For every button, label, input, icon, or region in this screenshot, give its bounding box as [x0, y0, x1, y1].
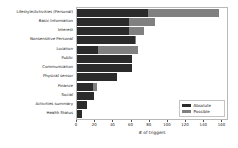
y-axis-tick-label: Nonsensitive Personal [0, 37, 73, 41]
bar-row [77, 54, 227, 63]
bar-absolute [77, 36, 135, 44]
y-axis-tick-label: Activities summary [0, 102, 73, 106]
bar-absolute [77, 73, 117, 81]
legend-label: Absolute [194, 103, 211, 108]
y-axis-tick-label: Health Status [0, 111, 73, 115]
bar-chart-figure: Lifestyle/Activities (Personal)Basic Inf… [0, 0, 238, 148]
bar-absolute [77, 18, 129, 26]
bar-absolute [77, 55, 132, 63]
y-axis-tick-label: Finance [0, 84, 73, 88]
y-axis-tick-label: Lifestyle/Activities (Personal) [0, 10, 73, 14]
legend-label: Possible [194, 109, 210, 114]
bar-absolute [77, 64, 132, 72]
x-axis-tick-label: 40 [110, 123, 115, 127]
legend-swatch [182, 110, 191, 113]
bar-row [77, 45, 227, 54]
x-axis-tick-label: 60 [128, 123, 133, 127]
chart-legend: AbsolutePossible [179, 100, 225, 117]
y-axis-tick-label: Communication [0, 65, 73, 69]
y-axis-tick-label: Interest [0, 28, 73, 32]
x-axis-tick-label: 160 [218, 123, 225, 127]
x-axis-tick-label: 80 [146, 123, 151, 127]
y-axis-tick-label: Social [0, 93, 73, 97]
x-axis-tick-label: 120 [181, 123, 188, 127]
y-axis-tick-label: Public [0, 56, 73, 60]
y-axis-tick-label: Basic Information [0, 19, 73, 23]
bar-row [77, 36, 227, 45]
x-axis-title: # of triggers [76, 130, 228, 135]
bar-row [77, 64, 227, 73]
y-axis-tick-label: Location [0, 47, 73, 51]
x-axis-tick-label: 100 [163, 123, 170, 127]
x-axis-tick-label: 140 [200, 123, 207, 127]
bar-row [77, 17, 227, 26]
bar-absolute [77, 110, 82, 118]
y-axis-tick-label: Physical sensor [0, 74, 73, 78]
y-axis-labels: Lifestyle/Activities (Personal)Basic Inf… [0, 7, 73, 120]
bar-row [77, 8, 227, 17]
x-axis-tick-label: 20 [92, 123, 97, 127]
bar-absolute [77, 101, 87, 109]
bar-absolute [77, 92, 94, 100]
bar-absolute [77, 83, 93, 91]
bar-row [77, 82, 227, 91]
bar-absolute [77, 27, 129, 35]
legend-swatch [182, 104, 191, 107]
legend-item: Possible [182, 109, 222, 115]
bar-row [77, 27, 227, 36]
x-axis-tick-label: 0 [75, 123, 77, 127]
bar-row [77, 73, 227, 82]
bar-absolute [77, 46, 98, 54]
bar-absolute [77, 9, 148, 17]
